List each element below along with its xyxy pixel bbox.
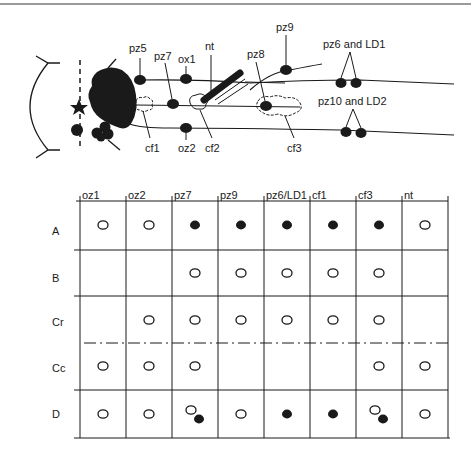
oz2-cell [180, 123, 192, 133]
col-header-oz1: oz1 [82, 189, 100, 201]
pz8-cell [260, 101, 272, 111]
open-circle-marker [374, 362, 384, 370]
open-circle-marker [144, 362, 154, 370]
cf3-leader [285, 116, 294, 138]
col-header-pz6-ld1: pz6/LD1 [266, 189, 307, 201]
pz5-label: pz5 [129, 42, 147, 54]
star-icon [70, 99, 88, 115]
col-header-cf1: cf1 [312, 189, 327, 201]
pz6-ld1-label: pz6 and LD1 [323, 38, 385, 50]
filled-circle-marker [190, 221, 200, 230]
open-circle-marker [236, 410, 246, 418]
pz9-label: pz9 [276, 21, 294, 33]
pz8-label: pz8 [247, 48, 265, 60]
open-circle-marker [328, 269, 338, 277]
cf2-label: cf2 [205, 142, 220, 154]
row-label-cc: Cc [52, 362, 66, 374]
ld2-cell [356, 128, 367, 138]
row-label-cr: Cr [52, 316, 64, 328]
open-circle-marker [186, 406, 196, 414]
open-circle-marker [328, 316, 338, 324]
filled-circle-marker [282, 221, 292, 230]
arc-top-tick [36, 56, 60, 63]
cf1-cloud [136, 97, 153, 112]
open-circle-marker [144, 316, 154, 324]
nerve-middle [136, 105, 300, 107]
row-label-b: B [52, 272, 59, 284]
open-circle-marker [98, 410, 108, 418]
open-circle-marker [420, 362, 430, 370]
row-label-d: D [52, 408, 60, 420]
col-header-oz2: oz2 [128, 189, 146, 201]
pz10-ld2-leader [346, 109, 361, 128]
open-circle-marker [420, 410, 430, 418]
filled-circle-marker [378, 415, 388, 424]
open-circle-marker [190, 362, 200, 370]
cf3-label: cf3 [287, 142, 302, 154]
open-circle-marker [374, 269, 384, 277]
pz10-ld2-label: pz10 and LD2 [318, 95, 387, 107]
pz6-cell [336, 78, 347, 88]
ganglion-mass [88, 67, 136, 128]
open-circle-marker [98, 362, 108, 370]
col-header-pz7: pz7 [174, 189, 192, 201]
cluster-dot [97, 133, 106, 142]
open-circle-marker [370, 406, 380, 414]
open-circle-marker [144, 410, 154, 418]
ox1-cell [180, 74, 192, 84]
filled-circle-marker [282, 410, 292, 419]
filled-circle-marker [374, 221, 384, 230]
open-circle-marker [282, 316, 292, 324]
left-arc [30, 63, 48, 150]
cf1-label: cf1 [145, 142, 160, 154]
ld1-cell [351, 78, 362, 88]
pz6-ld1-leader [341, 52, 356, 78]
open-circle-marker [190, 316, 200, 324]
col-header-nt: nt [404, 189, 413, 201]
open-circle-marker [282, 269, 292, 277]
left-dot [71, 124, 83, 136]
open-circle-marker [98, 221, 108, 229]
filled-circle-marker [236, 221, 246, 230]
pz5-cell [134, 75, 146, 85]
pz10-cell [341, 127, 352, 137]
open-circle-marker [190, 269, 200, 277]
cluster-tick [108, 140, 120, 150]
filled-circle-marker [328, 410, 338, 419]
oz2-label: oz2 [178, 142, 196, 154]
ox1-label: ox1 [178, 53, 196, 65]
anatomical-diagram: pz5 pz7 ox1 oz2 cf1 cf2 nt [30, 21, 454, 158]
open-circle-marker [236, 316, 246, 324]
pz7-label: pz7 [154, 50, 172, 62]
open-circle-marker [236, 269, 246, 277]
filled-circle-marker [194, 415, 204, 424]
open-circle-marker [144, 221, 154, 229]
pz7-leader [165, 63, 172, 99]
open-circle-marker [420, 221, 430, 229]
col-header-pz9: pz9 [220, 189, 238, 201]
pz7-cell [167, 99, 179, 109]
nt-label: nt [205, 40, 214, 52]
open-circle-marker [374, 316, 384, 324]
cf2-leader [200, 110, 212, 138]
cf1-leader [143, 111, 150, 138]
col-header-cf3: cf3 [358, 189, 373, 201]
arc-bottom-tick [36, 150, 60, 158]
row-label-a: A [52, 225, 60, 237]
figure: pz5 pz7 ox1 oz2 cf1 cf2 nt [0, 0, 471, 451]
filled-circle-marker [328, 221, 338, 230]
pz9-cell [280, 65, 292, 75]
results-table: oz1 oz2 pz7 pz9 pz6/LD1 cf1 cf3 nt A B C… [52, 189, 450, 438]
pz8-leader [256, 62, 265, 101]
mass-tick-top [108, 59, 116, 68]
